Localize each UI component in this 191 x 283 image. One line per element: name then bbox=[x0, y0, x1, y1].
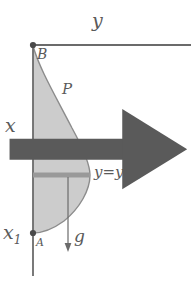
axis-label-x1: x1 bbox=[3, 223, 21, 246]
curve-label-p: P bbox=[62, 82, 72, 97]
area-label-s: S bbox=[46, 138, 58, 155]
curve-equation-label: y=y(x) bbox=[94, 165, 144, 180]
vector-arrow-icon bbox=[0, 0, 191, 283]
point-label-a: A bbox=[36, 237, 44, 248]
point-label-b: B bbox=[37, 47, 47, 61]
gravity-label: g bbox=[74, 228, 85, 245]
axis-label-y: y bbox=[92, 11, 103, 30]
x1-base: x bbox=[3, 221, 14, 243]
physics-diagram: y x x1 B A P S y=y(x) g bbox=[0, 0, 191, 283]
axis-label-x: x bbox=[5, 116, 16, 135]
x1-subscript: 1 bbox=[14, 233, 22, 247]
